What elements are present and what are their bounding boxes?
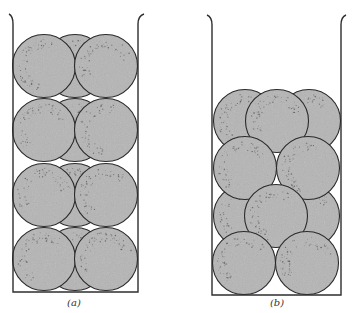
panel-a-square-packing [9, 14, 144, 292]
sphere-front [13, 228, 76, 291]
sphere-front [276, 232, 339, 295]
sphere-front [13, 99, 76, 162]
panel-a-label: (a) [67, 297, 81, 308]
sphere-front [75, 164, 138, 227]
sphere-front [75, 228, 138, 291]
sphere-front [75, 99, 138, 162]
sphere-packing-figure [0, 0, 352, 313]
sphere-front [75, 35, 138, 98]
sphere-front [213, 232, 276, 295]
sphere-front [13, 35, 76, 98]
sphere-front [13, 164, 76, 227]
panel-b-close-packing [207, 15, 346, 295]
panel-b-label: (b) [270, 297, 284, 308]
